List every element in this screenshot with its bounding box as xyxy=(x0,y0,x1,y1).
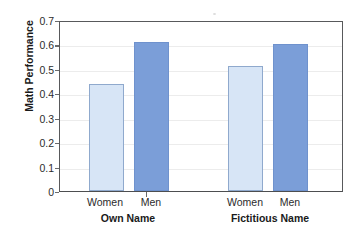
y-axis-tick-label: 0.1 xyxy=(24,163,54,174)
y-axis-tick-label: 0 xyxy=(24,187,54,198)
y-axis-tick-label: 0.6 xyxy=(24,40,54,51)
y-axis-tick-mark xyxy=(55,192,59,193)
y-axis-tick-mark xyxy=(55,168,59,169)
y-axis-tick-mark xyxy=(55,70,59,71)
y-axis-tick-mark xyxy=(55,21,59,22)
y-axis-tick-mark xyxy=(55,119,59,120)
scan-artifact-speck xyxy=(213,13,216,15)
y-axis-tick-labels: 0.70.60.50.40.30.20.10 xyxy=(24,0,54,236)
y-axis-tick-label: 0.5 xyxy=(24,65,54,76)
y-axis-tick-mark xyxy=(55,143,59,144)
bar-chart: Math Performance 0.70.60.50.40.30.20.10 … xyxy=(0,0,358,236)
y-axis-tick-mark xyxy=(55,45,59,46)
y-axis-tick-label: 0.3 xyxy=(24,114,54,125)
y-axis-tick-mark xyxy=(55,94,59,95)
y-axis-tick-label: 0.2 xyxy=(24,138,54,149)
x-axis-group-label-own-name: Own Name xyxy=(78,212,178,224)
x-axis-label-men-fictitious: Men xyxy=(260,196,320,208)
y-axis-tick-marks xyxy=(59,21,343,192)
y-axis-tick-label: 0.7 xyxy=(24,16,54,27)
x-axis-group-label-fictitious-name: Fictitious Name xyxy=(215,212,325,224)
x-axis-label-men-own: Men xyxy=(121,196,181,208)
y-axis-tick-label: 0.4 xyxy=(24,89,54,100)
